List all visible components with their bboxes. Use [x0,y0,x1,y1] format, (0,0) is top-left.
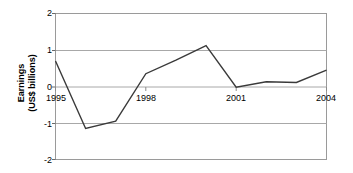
x-tick-label: 2004 [316,94,336,103]
x-tick-label: 1995 [46,94,66,103]
x-axis-tick-labels: 1995 1998 2001 2004 [0,0,353,173]
x-tick-label: 2001 [226,94,246,103]
x-tick-label: 1998 [136,94,156,103]
earnings-line-chart: Earnings (US$ billions) 2 1 0 -1 -2 [0,0,353,173]
